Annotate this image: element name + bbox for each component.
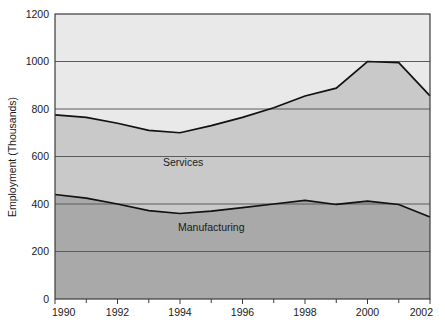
x-tick-label-2000: 2000 xyxy=(356,306,380,318)
y-tick-label-1000: 1000 xyxy=(26,55,50,67)
chart-canvas: 1990199219941996199820002002 02004006008… xyxy=(0,0,445,325)
y-tick-label-1200: 1200 xyxy=(26,8,50,20)
x-tick-label-1998: 1998 xyxy=(293,306,317,318)
x-tick-label-1994: 1994 xyxy=(168,306,192,318)
series-label-manufacturing: Manufacturing xyxy=(178,221,245,233)
series-label-services: Services xyxy=(163,156,203,168)
y-axis-tick-labels: 020040060080010001200 xyxy=(26,8,50,305)
y-tick-label-400: 400 xyxy=(31,198,49,210)
x-tick-label-1990: 1990 xyxy=(52,306,76,318)
x-axis-tick-labels: 1990199219941996199820002002 xyxy=(52,306,433,318)
x-axis-ticks xyxy=(55,299,430,304)
y-tick-label-200: 200 xyxy=(31,245,49,257)
y-tick-label-0: 0 xyxy=(43,293,49,305)
x-tick-label-1996: 1996 xyxy=(231,306,255,318)
area-manufacturing xyxy=(55,195,430,300)
x-tick-label-1992: 1992 xyxy=(106,306,130,318)
x-tick-label-2002: 2002 xyxy=(410,306,434,318)
y-tick-label-600: 600 xyxy=(31,150,49,162)
y-axis-title: Employment (Thousands) xyxy=(6,97,18,217)
employment-area-chart: 1990199219941996199820002002 02004006008… xyxy=(0,0,445,325)
y-tick-label-800: 800 xyxy=(31,103,49,115)
